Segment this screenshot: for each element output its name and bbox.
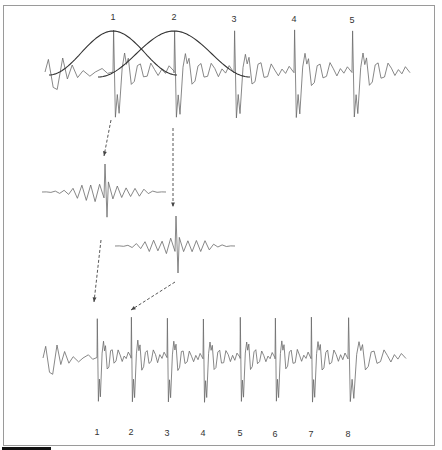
- output-signal-waveform: [43, 317, 406, 402]
- diagram-canvas: [0, 0, 442, 450]
- top-mark-label: 2: [171, 12, 176, 22]
- original-signal-waveform: [45, 30, 410, 118]
- extracted-segment-2: [115, 216, 235, 273]
- extraction-arrows: [93, 120, 175, 310]
- bottom-mark-label: 8: [345, 429, 350, 439]
- top-mark-label: 5: [349, 15, 354, 25]
- bottom-mark-label: 4: [200, 428, 205, 438]
- top-mark-label: 3: [231, 14, 236, 24]
- bottom-mark-label: 5: [237, 428, 242, 438]
- top-mark-label: 1: [110, 12, 115, 22]
- top-mark-label: 4: [291, 14, 296, 24]
- bottom-mark-label: 7: [308, 429, 313, 439]
- psola-diagram: 1 2 3 4 5 1 2 3 4 5 6 7 8: [0, 0, 442, 450]
- bottom-mark-label: 6: [272, 429, 277, 439]
- bottom-mark-label: 2: [128, 427, 133, 437]
- extracted-segment-1: [42, 164, 166, 217]
- bottom-mark-label: 3: [164, 428, 169, 438]
- hanning-windows: [49, 31, 250, 77]
- bottom-mark-label: 1: [94, 427, 99, 437]
